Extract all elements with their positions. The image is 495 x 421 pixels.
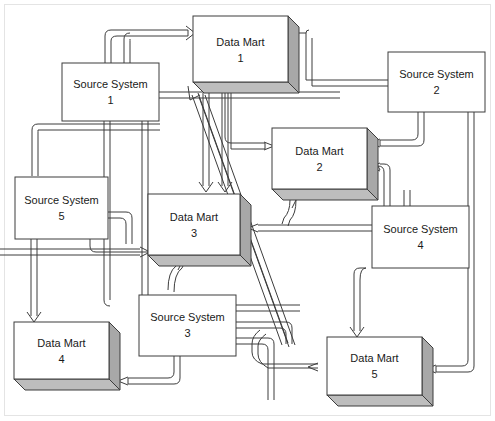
data-mart-2-right-face [367, 128, 378, 200]
edge-ss3-right [236, 305, 300, 400]
edge-ss5-curve [90, 239, 150, 252]
source-system-2-front-face [388, 52, 485, 112]
node-data-mart-1[interactable]: Data Mart 1 [193, 16, 299, 93]
data-mart-5-right-face [422, 337, 433, 406]
source-system-3-label-line1: Source System [150, 311, 225, 323]
data-mart-5-label-line1: Data Mart [350, 352, 398, 364]
edge-ss4-dm3 [248, 224, 372, 232]
edge-ss2-dm1 [289, 30, 388, 86]
source-system-2-label-line2: 2 [433, 84, 439, 96]
data-mart-1-right-face [288, 16, 299, 93]
diagram-canvas: Data Mart 1 Source System 1 Source Syste… [0, 0, 495, 421]
node-data-mart-5[interactable]: Data Mart 5 [327, 337, 433, 406]
data-mart-4-bottom-face [14, 379, 120, 390]
data-mart-3-front-face [148, 194, 240, 255]
data-mart-1-bottom-face [193, 82, 299, 93]
node-data-mart-2[interactable]: Data Mart 2 [272, 128, 378, 200]
data-mart-5-front-face [327, 337, 422, 395]
data-mart-1-front-face [193, 16, 288, 82]
node-source-system-3[interactable]: Source System 3 [139, 295, 236, 356]
data-mart-2-bottom-face [272, 189, 378, 200]
source-system-4-label-line1: Source System [383, 223, 458, 235]
data-mart-2-front-face [272, 128, 367, 189]
source-system-3-front-face [139, 295, 236, 356]
edge-ss4-top [404, 190, 410, 206]
node-source-system-4[interactable]: Source System 4 [372, 206, 469, 268]
edge-mid-verticals [142, 121, 148, 300]
data-mart-4-label-line2: 4 [58, 353, 64, 365]
data-mart-4-right-face [109, 322, 120, 390]
edge-ss1-dm1 [105, 26, 195, 63]
data-mart-2-label-line1: Data Mart [295, 145, 343, 157]
data-mart-3-label-line1: Data Mart [170, 211, 218, 223]
source-system-1-label-line2: 1 [107, 94, 113, 106]
edge-ss5-dm4 [27, 239, 41, 322]
data-mart-3-label-line2: 3 [191, 227, 197, 239]
source-system-5-front-face [15, 177, 108, 239]
edge-ss3-dm4 [118, 356, 180, 385]
node-source-system-5[interactable]: Source System 5 [15, 177, 108, 239]
edge-ss4-dm5 [350, 268, 366, 337]
source-system-3-label-line2: 3 [184, 327, 190, 339]
node-data-mart-3[interactable]: Data Mart 3 [148, 194, 251, 266]
data-mart-4-front-face [14, 322, 109, 379]
source-system-5-label-line1: Source System [24, 194, 99, 206]
data-mart-2-label-line2: 2 [316, 161, 322, 173]
data-mart-1-label-line2: 1 [237, 52, 243, 64]
node-source-system-1[interactable]: Source System 1 [62, 63, 159, 121]
edge-dm1-dm2 [225, 93, 274, 150]
data-mart-5-bottom-face [327, 395, 433, 406]
data-mart-5-label-line2: 5 [371, 368, 377, 380]
source-system-2-label-line1: Source System [399, 68, 474, 80]
node-data-mart-4[interactable]: Data Mart 4 [14, 322, 120, 390]
data-mart-3-right-face [240, 194, 251, 266]
source-system-1-front-face [62, 63, 159, 121]
data-mart-3-bottom-face [148, 255, 251, 266]
integration-diagram: Data Mart 1 Source System 1 Source Syste… [0, 0, 495, 421]
edge-left-bus [32, 124, 160, 176]
source-system-4-label-line2: 4 [417, 239, 423, 251]
source-system-5-label-line2: 5 [58, 210, 64, 222]
data-mart-4-label-line1: Data Mart [37, 337, 85, 349]
node-source-system-2[interactable]: Source System 2 [388, 52, 485, 112]
source-system-1-label-line1: Source System [73, 78, 148, 90]
data-mart-1-label-line1: Data Mart [216, 36, 264, 48]
source-system-4-front-face [372, 206, 469, 268]
